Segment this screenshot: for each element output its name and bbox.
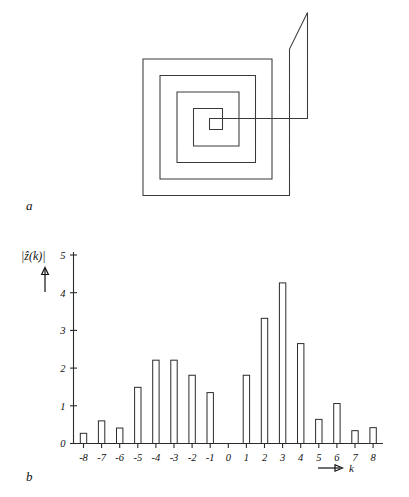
panel-b-bar-chart: 012345 -8-7-6-5-4-3-2-1012345678 |ẑ(k)|… (0, 232, 409, 497)
bar (98, 421, 104, 444)
x-tick-label: 5 (316, 452, 321, 463)
x-tick-label: -4 (152, 452, 161, 463)
bar-chart-svg: 012345 -8-7-6-5-4-3-2-1012345678 |ẑ(k)|… (0, 232, 409, 497)
bar (117, 428, 123, 443)
y-tick-label: 5 (60, 250, 65, 261)
x-tick-label: 1 (244, 452, 249, 463)
bar (298, 344, 304, 444)
bar (279, 283, 285, 444)
y-tick-label: 3 (59, 325, 65, 336)
y-tick-label: 0 (60, 438, 66, 449)
bar-series (80, 283, 376, 444)
x-tick-label: 3 (279, 452, 285, 463)
bar (316, 419, 322, 443)
bar (207, 393, 213, 444)
bar (261, 318, 267, 443)
x-tick-label: -3 (170, 452, 179, 463)
y-tick-label: 1 (60, 401, 65, 412)
panel-b-label: b (26, 469, 33, 485)
spiral-contour-svg (0, 0, 409, 232)
bar (370, 428, 376, 444)
x-axis-arrow-icon (318, 465, 343, 471)
panel-a-spiral-figure: a (0, 0, 409, 232)
y-axis-tick-labels: 012345 (59, 250, 66, 449)
bar (352, 431, 358, 444)
x-axis-ticks (84, 444, 374, 449)
x-tick-label: -7 (97, 452, 106, 463)
x-tick-label: 8 (370, 452, 376, 463)
x-tick-label: 0 (226, 452, 232, 463)
bar (153, 360, 159, 443)
bar (334, 404, 340, 444)
y-tick-label: 2 (60, 363, 66, 374)
x-tick-label: -6 (115, 452, 124, 463)
x-tick-label: 7 (352, 452, 358, 463)
bar (80, 433, 86, 443)
y-axis-arrow-icon (42, 267, 49, 292)
x-tick-label: -8 (79, 452, 88, 463)
bar (243, 375, 249, 443)
bar (171, 360, 177, 443)
panel-a-label: a (26, 198, 33, 214)
y-tick-label: 4 (60, 288, 66, 299)
bar (135, 387, 141, 443)
y-axis-label: |ẑ(k)| (21, 249, 46, 263)
x-tick-label: -5 (133, 452, 142, 463)
x-tick-label: -2 (188, 452, 197, 463)
x-tick-label: 6 (334, 452, 340, 463)
x-tick-label: -1 (206, 452, 215, 463)
x-tick-label: 4 (298, 452, 304, 463)
x-axis-label: k (349, 462, 355, 474)
x-tick-label: 2 (262, 452, 268, 463)
bar (189, 375, 195, 443)
spiral-outline-path (143, 13, 308, 196)
x-axis-tick-labels: -8-7-6-5-4-3-2-1012345678 (79, 452, 376, 463)
